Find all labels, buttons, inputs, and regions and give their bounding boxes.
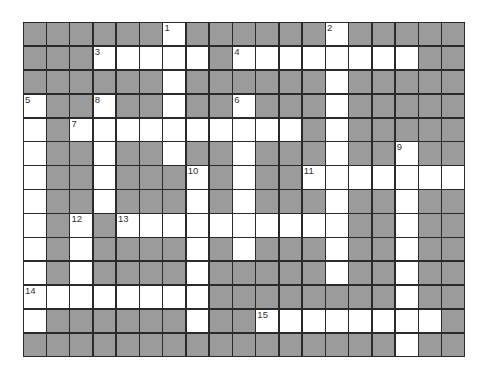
- crossword-cell[interactable]: [326, 310, 348, 332]
- crossword-cell[interactable]: [396, 310, 418, 332]
- crossword-cell[interactable]: [326, 262, 348, 284]
- crossword-cell[interactable]: 12: [70, 214, 92, 236]
- crossword-cell[interactable]: [233, 166, 255, 188]
- crossword-cell[interactable]: [349, 47, 371, 69]
- crossword-cell[interactable]: [187, 238, 209, 260]
- crossword-cell[interactable]: [24, 310, 46, 332]
- crossword-cell[interactable]: 9: [396, 142, 418, 164]
- crossword-cell[interactable]: [24, 166, 46, 188]
- crossword-cell[interactable]: [326, 119, 348, 141]
- crossword-cell[interactable]: [326, 47, 348, 69]
- crossword-cell[interactable]: 4: [233, 47, 255, 69]
- crossword-cell[interactable]: [163, 214, 185, 236]
- crossword-cell[interactable]: [163, 142, 185, 164]
- crossword-cell[interactable]: [256, 119, 278, 141]
- crossword-cell[interactable]: 7: [70, 119, 92, 141]
- crossword-cell[interactable]: [187, 190, 209, 212]
- crossword-cell[interactable]: [303, 310, 325, 332]
- crossword-cell[interactable]: [117, 119, 139, 141]
- crossword-cell[interactable]: [163, 47, 185, 69]
- crossword-cell[interactable]: 10: [187, 166, 209, 188]
- crossword-cell[interactable]: [326, 166, 348, 188]
- crossword-cell[interactable]: [233, 142, 255, 164]
- crossword-cell[interactable]: [326, 71, 348, 93]
- crossword-cell[interactable]: [396, 214, 418, 236]
- crossword-cell[interactable]: 6: [233, 95, 255, 117]
- crossword-cell[interactable]: [117, 47, 139, 69]
- crossword-cell[interactable]: [187, 286, 209, 308]
- crossword-cell[interactable]: 3: [94, 47, 116, 69]
- crossword-cell[interactable]: [233, 238, 255, 260]
- crossword-cell[interactable]: [94, 166, 116, 188]
- crossword-cell[interactable]: [70, 238, 92, 260]
- crossword-cell[interactable]: [396, 334, 418, 356]
- crossword-cell[interactable]: [187, 47, 209, 69]
- crossword-cell[interactable]: [326, 214, 348, 236]
- crossword-cell[interactable]: [256, 214, 278, 236]
- crossword-cell[interactable]: [187, 214, 209, 236]
- crossword-cell[interactable]: [163, 119, 185, 141]
- crossword-cell[interactable]: 2: [326, 23, 348, 45]
- crossword-cell[interactable]: [117, 286, 139, 308]
- crossword-cell[interactable]: [187, 262, 209, 284]
- crossword-cell[interactable]: 1: [163, 23, 185, 45]
- crossword-cell[interactable]: [94, 119, 116, 141]
- crossword-cell[interactable]: [373, 47, 395, 69]
- crossword-cell[interactable]: [163, 286, 185, 308]
- crossword-cell[interactable]: [373, 166, 395, 188]
- crossword-cell[interactable]: [187, 310, 209, 332]
- crossword-cell[interactable]: [24, 119, 46, 141]
- crossword-cell[interactable]: [233, 190, 255, 212]
- crossword-cell[interactable]: [187, 119, 209, 141]
- crossword-cell[interactable]: [396, 286, 418, 308]
- crossword-cell[interactable]: 11: [303, 166, 325, 188]
- crossword-cell[interactable]: [326, 190, 348, 212]
- crossword-cell[interactable]: [24, 262, 46, 284]
- crossword-cell[interactable]: [280, 119, 302, 141]
- crossword-cell[interactable]: [210, 214, 232, 236]
- crossword-cell[interactable]: [442, 166, 464, 188]
- crossword-cell[interactable]: [94, 286, 116, 308]
- crossword-cell[interactable]: 5: [24, 95, 46, 117]
- crossword-cell[interactable]: [396, 238, 418, 260]
- crossword-cell[interactable]: [70, 262, 92, 284]
- crossword-cell[interactable]: [140, 214, 162, 236]
- crossword-cell[interactable]: [396, 47, 418, 69]
- crossword-cell[interactable]: [163, 71, 185, 93]
- crossword-cell[interactable]: [140, 47, 162, 69]
- crossword-cell[interactable]: [210, 119, 232, 141]
- crossword-cell[interactable]: [303, 47, 325, 69]
- crossword-cell[interactable]: 8: [94, 95, 116, 117]
- crossword-cell[interactable]: [373, 310, 395, 332]
- crossword-cell[interactable]: [94, 142, 116, 164]
- crossword-cell[interactable]: [419, 310, 441, 332]
- crossword-cell[interactable]: [24, 142, 46, 164]
- crossword-cell[interactable]: [280, 310, 302, 332]
- crossword-cell[interactable]: [280, 47, 302, 69]
- crossword-cell[interactable]: [24, 190, 46, 212]
- crossword-cell[interactable]: [396, 190, 418, 212]
- crossword-cell[interactable]: [233, 214, 255, 236]
- crossword-cell[interactable]: 14: [24, 286, 46, 308]
- crossword-cell[interactable]: [396, 166, 418, 188]
- crossword-cell[interactable]: [233, 119, 255, 141]
- crossword-cell[interactable]: 13: [117, 214, 139, 236]
- crossword-cell[interactable]: [163, 95, 185, 117]
- crossword-cell[interactable]: [349, 310, 371, 332]
- crossword-cell[interactable]: [349, 166, 371, 188]
- crossword-cell[interactable]: [140, 119, 162, 141]
- crossword-cell[interactable]: [396, 262, 418, 284]
- crossword-cell[interactable]: [303, 214, 325, 236]
- crossword-cell[interactable]: [94, 190, 116, 212]
- crossword-cell[interactable]: [256, 47, 278, 69]
- crossword-cell[interactable]: [280, 214, 302, 236]
- crossword-cell[interactable]: [24, 238, 46, 260]
- crossword-cell[interactable]: [326, 95, 348, 117]
- crossword-cell[interactable]: [140, 286, 162, 308]
- crossword-cell[interactable]: 15: [256, 310, 278, 332]
- crossword-cell[interactable]: [419, 166, 441, 188]
- crossword-cell[interactable]: [47, 286, 69, 308]
- crossword-cell[interactable]: [326, 238, 348, 260]
- crossword-cell[interactable]: [70, 286, 92, 308]
- crossword-cell[interactable]: [24, 214, 46, 236]
